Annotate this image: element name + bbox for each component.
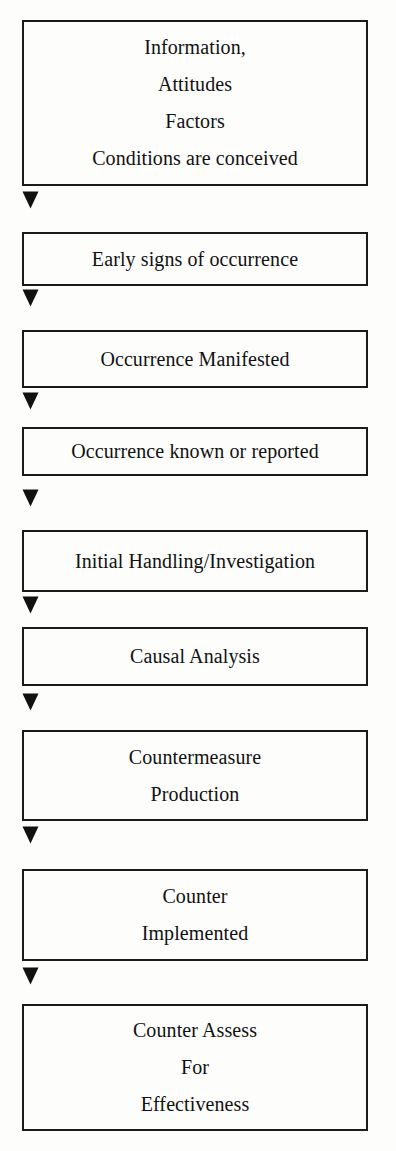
flow-node-label-line: Occurrence known or reported (71, 433, 319, 470)
flow-node-label-line: Early signs of occurrence (92, 241, 298, 278)
flow-node-initial-handling-investigation: Initial Handling/Investigation (22, 530, 368, 592)
triangle-down-icon (22, 967, 39, 985)
triangle-down-icon (22, 826, 39, 844)
flow-node-early-signs-of-occurrence: Early signs of occurrence (22, 232, 368, 286)
flow-node-label-line: Counter (162, 878, 227, 915)
flow-node-causal-analysis: Causal Analysis (22, 627, 368, 686)
flow-node-label-line: Conditions are conceived (92, 140, 298, 177)
flow-node-counter-implemented: CounterImplemented (22, 869, 368, 961)
flow-node-label-line: Factors (165, 103, 225, 140)
flow-node-label-line: Causal Analysis (130, 638, 260, 675)
flow-node-label-line: Attitudes (158, 66, 232, 103)
flow-node-label-line: Information, (144, 29, 246, 66)
flow-node-occurrence-manifested: Occurrence Manifested (22, 330, 368, 388)
flow-node-label-line: For (181, 1049, 209, 1086)
flow-node-label-line: Production (151, 776, 240, 813)
triangle-down-icon (22, 489, 39, 507)
flow-node-label-line: Countermeasure (129, 739, 261, 776)
triangle-down-icon (22, 289, 39, 307)
flow-node-label-line: Initial Handling/Investigation (75, 543, 315, 580)
triangle-down-icon (22, 191, 39, 209)
flow-node-countermeasure-production: CountermeasureProduction (22, 730, 368, 821)
flow-node-label-line: Implemented (142, 915, 249, 952)
flow-node-information-attitudes-factors-conditions: Information,AttitudesFactorsConditions a… (22, 20, 368, 186)
triangle-down-icon (22, 693, 39, 711)
triangle-down-icon (22, 596, 39, 614)
flow-node-counter-assess-for-effectiveness: Counter AssessForEffectiveness (22, 1004, 368, 1131)
flowchart-diagram: Information,AttitudesFactorsConditions a… (0, 0, 396, 1151)
triangle-down-icon (22, 392, 39, 410)
flow-node-occurrence-known-or-reported: Occurrence known or reported (22, 427, 368, 476)
flow-node-label-line: Occurrence Manifested (100, 341, 289, 378)
flow-node-label-line: Counter Assess (133, 1012, 257, 1049)
flow-node-label-line: Effectiveness (141, 1086, 250, 1123)
